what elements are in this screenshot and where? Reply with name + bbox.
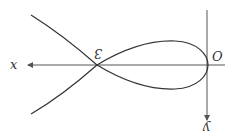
y-axis-label: y bbox=[203, 122, 210, 135]
curve-diagram bbox=[0, 0, 233, 138]
crossing-point-label: 3 bbox=[94, 47, 102, 60]
diagram-canvas: x O 3 y bbox=[0, 0, 233, 138]
origin-label: O bbox=[212, 50, 223, 63]
curve-branch-lower bbox=[31, 65, 97, 114]
x-axis-label: x bbox=[10, 58, 17, 71]
curve-branch-upper bbox=[31, 15, 97, 65]
